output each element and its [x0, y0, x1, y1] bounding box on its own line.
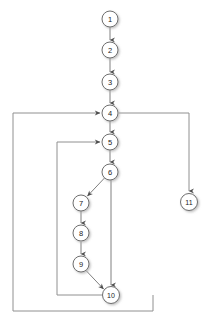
- edge-10-to-4: [13, 113, 153, 311]
- edge-6-to-7: [88, 178, 105, 196]
- node-8[interactable]: 8: [73, 225, 89, 241]
- node-1[interactable]: 1: [102, 11, 118, 27]
- flow-graph-canvas: 1 2 3 4 5 6: [0, 0, 208, 328]
- nodes-group: 1 2 3 4 5 6: [73, 11, 198, 304]
- edge-9-to-10: [86, 271, 104, 290]
- node-2[interactable]: 2: [102, 42, 118, 58]
- node-3[interactable]: 3: [102, 74, 118, 90]
- node-6[interactable]: 6: [102, 164, 118, 180]
- routed-edges-group: [13, 113, 189, 311]
- node-7[interactable]: 7: [73, 195, 89, 211]
- node-9[interactable]: 9: [73, 256, 89, 272]
- edge-4-to-11: [119, 113, 189, 191]
- control-flow-graph: 1 2 3 4 5 6: [0, 0, 208, 328]
- node-11[interactable]: 11: [181, 194, 198, 211]
- node-10[interactable]: 10: [103, 287, 120, 304]
- direct-edges-group: [81, 27, 111, 289]
- node-5[interactable]: 5: [102, 134, 118, 150]
- node-4[interactable]: 4: [102, 105, 118, 121]
